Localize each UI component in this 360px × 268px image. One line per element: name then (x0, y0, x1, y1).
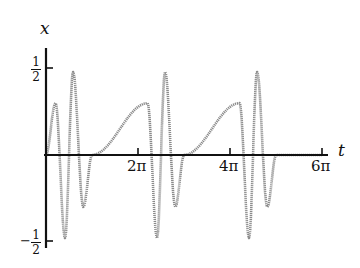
fraction-numerator: 1 (32, 55, 40, 69)
y-tick-sign-neg: − (20, 233, 31, 248)
fraction-denominator: 2 (32, 243, 40, 257)
x-tick-label-4pi: 4π (219, 157, 238, 175)
fraction-denominator: 2 (32, 70, 40, 84)
line-chart (0, 0, 360, 268)
y-axis-label: x (40, 18, 50, 38)
fraction-numerator: 1 (32, 228, 40, 242)
x-tick-label-2pi: 2π (127, 157, 146, 175)
y-tick-label-half: 1 2 (31, 56, 41, 83)
y-tick-label-neg-half: 1 2 (31, 229, 41, 256)
x-tick-label-6pi: 6π (311, 157, 330, 175)
x-axis-label: t (338, 140, 345, 160)
